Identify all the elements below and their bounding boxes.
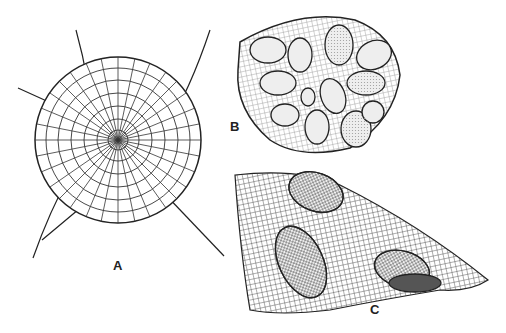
panel-label-c: C: [370, 302, 379, 317]
panel-label-b: B: [230, 119, 239, 134]
figure: A B C: [0, 0, 506, 333]
panel-label-a: A: [113, 258, 122, 273]
cell-radii: [35, 57, 201, 223]
panel-b-drawing: [238, 17, 400, 153]
illustration-canvas: [0, 0, 506, 333]
panel-a-drawing: [18, 30, 224, 258]
panel-c-drawing: [235, 165, 488, 313]
